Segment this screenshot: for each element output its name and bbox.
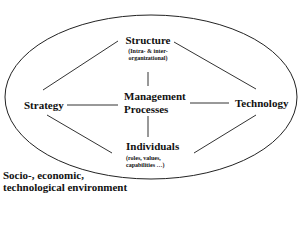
management-line: Management [124,91,186,102]
environment-line: technological environment [3,181,127,193]
subtitle-line: capabilities …) [126,162,179,169]
subtitle-line: (roles, values, [126,155,179,162]
edge-technology-individuals [194,115,256,153]
node-structure-title: Structure [118,35,178,46]
node-management-processes: Management Processes [124,91,186,115]
node-strategy: Strategy [24,100,64,111]
subtitle-line: organizational) [118,55,178,62]
edge-strategy-individuals [47,115,112,153]
edge-structure-technology [174,42,256,89]
environment-label: Socio-, economic, technological environm… [3,169,127,193]
edge-structure-strategy [43,41,118,90]
node-structure-subtitle: (Intra- & inter- organizational) [118,48,178,62]
management-line: Processes [124,104,186,115]
subtitle-line: (Intra- & inter- [118,48,178,55]
node-individuals-title: Individuals [126,141,179,152]
node-technology: Technology [235,98,288,109]
node-individuals: Individuals (roles, values, capabilities… [126,141,179,169]
node-structure: Structure (Intra- & inter- organizationa… [118,35,178,62]
node-individuals-subtitle: (roles, values, capabilities …) [126,155,179,169]
environment-line: Socio-, economic, [3,169,127,181]
